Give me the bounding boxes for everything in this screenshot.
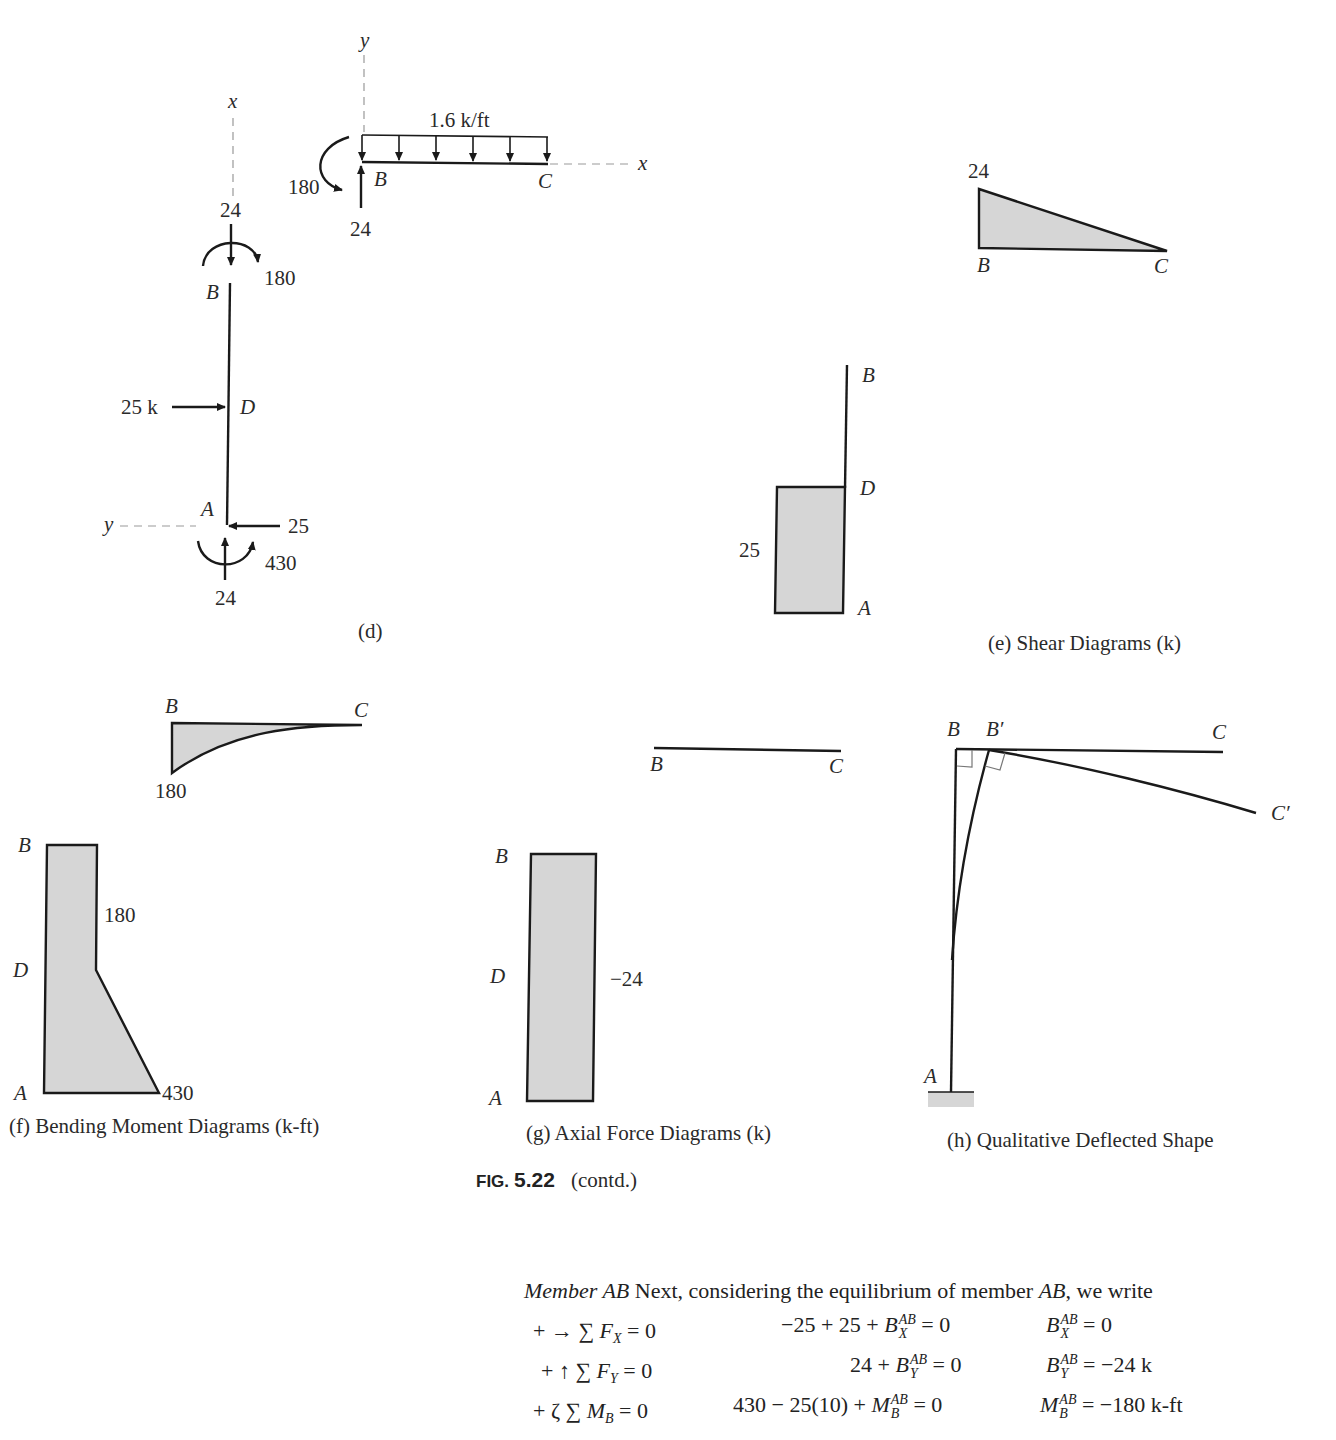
axis-x-label: x [637, 151, 648, 175]
equation-1-expression: −25 + 25 + BABX = 0 [781, 1312, 950, 1341]
node-c-label: C [1154, 254, 1169, 278]
figure-label: FIG. 5.22 (contd.) [476, 1168, 637, 1192]
node-b-label: B [165, 694, 178, 718]
axial-value-column: −24 [610, 967, 643, 991]
node-c-label: C [354, 698, 369, 722]
panel-h-deflected-shape: B B′ C C′ A [922, 717, 1290, 1107]
node-b-prime-label: B′ [986, 717, 1004, 741]
axis-x-label: x [227, 89, 238, 113]
node-a-label: A [856, 596, 871, 620]
node-d-label: D [489, 964, 505, 988]
node-b-label: B [977, 253, 990, 277]
equation-1-condition: + → ∑ FX = 0 [533, 1318, 656, 1347]
caption-e: (e) Shear Diagrams (k) [988, 631, 1181, 655]
svg-text:(contd.): (contd.) [571, 1168, 637, 1192]
panel-f-moment-diagram: B C 180 B 180 D A 430 [12, 694, 369, 1105]
equation-3-expression: 430 − 25(10) + MABB = 0 [733, 1392, 942, 1421]
caption-d: (d) [358, 619, 383, 643]
reaction-label: 24 [350, 217, 372, 241]
equation-2-condition: + ↑ ∑ FY = 0 [541, 1358, 652, 1387]
caption-f: (f) Bending Moment Diagrams (k-ft) [9, 1114, 319, 1138]
node-a-label: A [487, 1086, 502, 1110]
top-moment-label: 180 [264, 266, 296, 290]
svg-text:FIG.: FIG. [476, 1172, 509, 1191]
moment-label: 180 [288, 175, 320, 199]
distributed-load-arrows [362, 135, 547, 161]
panel-g-axial-diagram: B C B D A −24 [487, 748, 844, 1110]
equation-2-result: BABY = −24 k [1046, 1352, 1152, 1381]
node-b-label: B [206, 280, 219, 304]
node-d-label: D [12, 958, 28, 982]
equation-3-condition: + ζ ∑ MB = 0 [533, 1398, 648, 1427]
caption-g: (g) Axial Force Diagrams (k) [526, 1121, 771, 1145]
shear-value-column: 25 [739, 538, 760, 562]
node-d-label: D [239, 395, 255, 419]
node-c-label: C [1212, 720, 1227, 744]
node-b-label: B [650, 752, 663, 776]
svg-text:5.22: 5.22 [514, 1168, 555, 1191]
moment-arrow-icon [320, 137, 349, 190]
equation-3-result: MABB = −180 k-ft [1040, 1392, 1183, 1421]
node-b-label: B [947, 717, 960, 741]
axis-y-label: y [358, 28, 370, 52]
base-moment-label: 430 [265, 551, 297, 575]
applied-load-label: 25 k [121, 395, 158, 419]
node-c-label: C [538, 169, 553, 193]
node-b-label: B [18, 833, 31, 857]
distributed-load-label: 1.6 k/ft [429, 108, 490, 132]
shear-value-beam: 24 [968, 159, 990, 183]
node-b-label: B [495, 844, 508, 868]
moment-value-d: 180 [104, 903, 136, 927]
node-c-prime-label: C′ [1271, 801, 1290, 825]
panel-e-shear-diagram: 24 B C B D A 25 [739, 159, 1169, 620]
equation-2-expression: 24 + BABY = 0 [850, 1352, 961, 1381]
moment-value-a: 430 [162, 1081, 194, 1105]
node-b-label: B [862, 363, 875, 387]
top-axial-label: 24 [220, 198, 242, 222]
axis-y-label: y [102, 512, 114, 536]
figure-canvas: y x 1.6 k/ft 180 24 B C x 24 180 B [0, 0, 1336, 1440]
node-b-label: B [374, 167, 387, 191]
caption-h: (h) Qualitative Deflected Shape [947, 1128, 1213, 1152]
node-d-label: D [859, 476, 875, 500]
fixed-support-icon [928, 1092, 974, 1107]
paragraph-intro: Member AB Next, considering the equilibr… [524, 1278, 1153, 1304]
base-shear-label: 25 [288, 514, 309, 538]
moment-value-beam: 180 [155, 779, 187, 803]
base-axial-label: 24 [215, 586, 237, 610]
node-a-label: A [12, 1081, 27, 1105]
node-c-label: C [829, 754, 844, 778]
node-a-label: A [199, 497, 214, 521]
node-a-label: A [922, 1064, 937, 1088]
panel-d-beam-free-body: y x 1.6 k/ft 180 24 B C [288, 28, 648, 241]
equation-1-result: BABX = 0 [1046, 1312, 1112, 1341]
panel-d-column-free-body: x 24 180 B 25 k D A y 25 430 24 [102, 89, 309, 610]
